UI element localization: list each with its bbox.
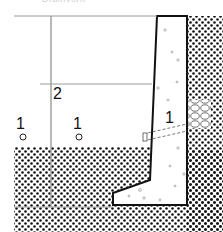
point-marker-mid xyxy=(76,134,82,140)
drain-outlet xyxy=(143,133,147,141)
diagram-canvas xyxy=(0,0,223,232)
retaining-wall-diagram: Drainvorh xyxy=(0,0,223,232)
label-water-level: 2 xyxy=(53,86,62,102)
label-soil-mid: 1 xyxy=(73,116,82,132)
gravel-drain-fill xyxy=(187,100,211,128)
point-marker-left xyxy=(20,134,26,140)
label-wall-drain: 1 xyxy=(165,110,174,126)
foundation-soil xyxy=(14,147,223,232)
label-soil-left: 1 xyxy=(16,116,25,132)
